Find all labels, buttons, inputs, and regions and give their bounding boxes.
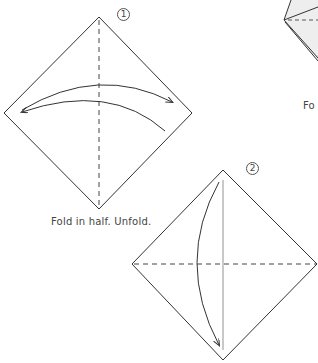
origami-diagram — [0, 0, 318, 363]
step1-caption: Fold in half. Unfold. — [51, 216, 151, 227]
step1-diamond — [4, 17, 192, 209]
unfold-arrow-left — [22, 101, 165, 131]
fold-arrow-right — [22, 85, 172, 110]
partial-figure-step3 — [284, 0, 318, 61]
step2-diamond — [132, 170, 317, 360]
step-number-1: 1 — [117, 8, 130, 21]
partial-caption: Fo — [303, 100, 315, 111]
step-number-2: 2 — [246, 162, 259, 175]
